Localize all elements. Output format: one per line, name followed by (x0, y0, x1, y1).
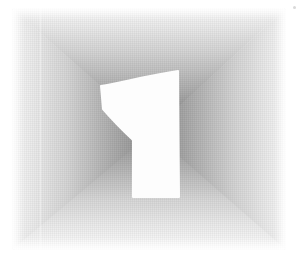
numeral-one-graphic (0, 0, 304, 263)
scanned-figure-page: 1 (0, 0, 304, 263)
dust-speck (293, 6, 296, 9)
numeral-one-shape (101, 71, 179, 197)
